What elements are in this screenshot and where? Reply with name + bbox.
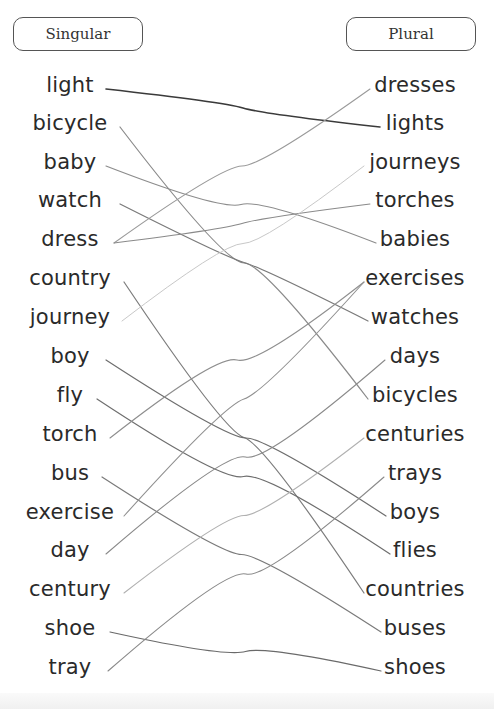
plural-word-lights[interactable]: lights: [340, 110, 490, 136]
plural-word-days[interactable]: days: [340, 343, 490, 369]
plural-word-journeys[interactable]: journeys: [340, 149, 490, 175]
match-line-watch-watches: [120, 204, 368, 321]
singular-word-light[interactable]: light: [0, 72, 140, 98]
match-line-journey-journeys: [122, 166, 364, 321]
singular-word-watch[interactable]: watch: [0, 187, 140, 213]
singular-word-day[interactable]: day: [0, 537, 140, 563]
plural-word-torches[interactable]: torches: [340, 187, 490, 213]
plural-word-boys[interactable]: boys: [340, 499, 490, 525]
plural-word-centuries[interactable]: centuries: [340, 421, 490, 447]
singular-word-century[interactable]: century: [0, 576, 140, 602]
singular-word-torch[interactable]: torch: [0, 421, 140, 447]
plural-word-dresses[interactable]: dresses: [340, 72, 490, 98]
singular-word-bicycle[interactable]: bicycle: [0, 110, 140, 136]
match-line-dress-torches: [114, 204, 370, 243]
singular-word-bus[interactable]: bus: [0, 460, 140, 486]
singular-word-country[interactable]: country: [0, 265, 140, 291]
match-line-century-centuries: [124, 438, 364, 593]
singular-word-journey[interactable]: journey: [0, 304, 140, 330]
plural-word-watches[interactable]: watches: [340, 304, 490, 330]
singular-word-baby[interactable]: baby: [0, 149, 140, 175]
match-line-baby-babies: [106, 166, 376, 243]
plural-word-buses[interactable]: buses: [340, 615, 490, 641]
plural-word-flies[interactable]: flies: [340, 537, 490, 563]
plural-word-bicycles[interactable]: bicycles: [340, 382, 490, 408]
singular-word-fly[interactable]: fly: [0, 382, 140, 408]
singular-word-tray[interactable]: tray: [0, 654, 140, 680]
plural-word-trays[interactable]: trays: [340, 460, 490, 486]
match-line-light-lights: [106, 89, 380, 127]
match-line-torch-exercises: [110, 282, 364, 438]
plural-word-exercises[interactable]: exercises: [340, 265, 490, 291]
singular-word-dress[interactable]: dress: [0, 226, 140, 252]
plural-word-shoes[interactable]: shoes: [340, 654, 490, 680]
page-bottom-edge: [0, 693, 494, 709]
singular-word-shoe[interactable]: shoe: [0, 615, 140, 641]
singular-word-exercise[interactable]: exercise: [0, 499, 140, 525]
plural-word-babies[interactable]: babies: [340, 226, 490, 252]
singular-word-boy[interactable]: boy: [0, 343, 140, 369]
plural-word-countries[interactable]: countries: [340, 576, 490, 602]
match-line-exercise-exercises: [124, 282, 364, 516]
